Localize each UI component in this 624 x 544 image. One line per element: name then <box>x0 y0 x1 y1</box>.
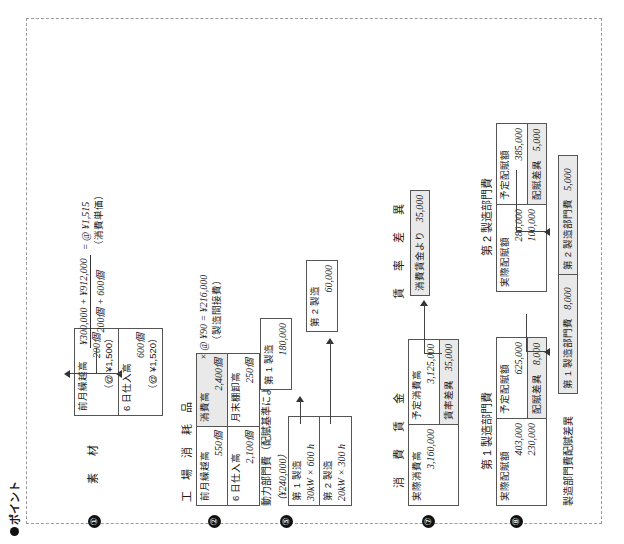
table-row: 第 1 製造 180,000 <box>261 319 292 390</box>
section-1-row-1-unit: （@ ¥1,520） <box>147 333 160 411</box>
section-5-number: ⑤ <box>280 515 293 528</box>
section-dept2-right-row-1-label: 配賦差異 <box>531 160 542 200</box>
variance-summary-connector-0-h <box>526 314 527 352</box>
section-dept2-left-row-0-value-0: 280,000 <box>512 209 526 287</box>
section-5-source-row-0-basis: 30kW × 600 h <box>304 421 318 501</box>
section-5-result-row-0-value: 180,000 <box>276 323 290 385</box>
variance-summary-cell-0-value: 8,000 <box>562 287 573 310</box>
section-5-result-row-0: 第 1 製造 180,000 <box>261 319 292 390</box>
section-7-right-row-0-value: 3,125,000 <box>424 344 438 420</box>
variance-summary-cell-1: 第 2 製造部門費 5,000 <box>559 156 578 275</box>
section-1-number: ① <box>88 515 101 528</box>
table-row: 実際消費高 3,160,000 予定消費高 3,125,000 <box>409 339 440 505</box>
section-8-right-row-0-label: 予定配賦額 <box>499 364 510 414</box>
section-2-left-row-1: 6 日仕入高 2,100個 <box>228 427 259 506</box>
section-5-connector-1 <box>330 342 331 424</box>
section-7-right-row-1: 賃率差異 35,000 <box>440 339 459 424</box>
section-2-right-row-1: 月末棚卸高 250個 <box>228 354 259 427</box>
section-1-fraction: ¥300,000 + ¥912,000 200個 + 600個 <box>78 255 107 348</box>
section-8-left-row-0-label: 実際配賦額 <box>499 451 510 501</box>
section-2-title: 工 場 消 耗 品 <box>178 394 194 506</box>
section-2-left-row-1-label: 6 日仕入高 <box>230 453 241 501</box>
variance-wage-table: 消費賃金より 35,000 <box>410 190 430 296</box>
page-title-label: ポイント <box>6 481 22 525</box>
bullet-icon <box>10 527 19 536</box>
table-row: 第 1 製造部門費 8,000 第 2 製造部門費 5,000 <box>559 156 578 394</box>
section-5-result-row-1: 第 2 製造 60,000 <box>307 261 338 332</box>
section-5-source-row-0-label: 第 1 製造 <box>291 460 302 501</box>
section-7-left-row-0-value: 3,160,000 <box>424 429 438 501</box>
section-8-number: ⑧ <box>510 515 523 528</box>
section-2-formula-expr: × @ ¥90 = ¥216,000 <box>198 275 209 360</box>
variance-summary-title: 製造部門費配賦差異 <box>560 416 575 506</box>
section-7-connector-h <box>424 304 425 354</box>
section-1-formula-note: （消費単価） <box>91 190 105 250</box>
table-row: 消費賃金より 35,000 <box>411 190 430 295</box>
section-7-connector-v <box>424 353 442 354</box>
section-2-formula-note: （製造間接費） <box>209 275 223 360</box>
section-7-right-row-1-label: 賃率差異 <box>443 380 454 420</box>
variance-summary-cell-1-value: 5,000 <box>562 168 573 191</box>
section-5-result-table-1: 第 1 製造 180,000 <box>260 318 292 390</box>
section-5-source-row-1-basis: 20kW × 300 h <box>335 421 349 501</box>
section-1-fraction-denominator: 200個 + 600個 <box>91 255 107 348</box>
section-8-title: 第 1 製造部門費 <box>478 356 494 506</box>
section-7-number: ⑦ <box>422 515 435 528</box>
section-5-result-row-0-label: 第 1 製造 <box>263 344 274 385</box>
section-1-fraction-numerator: ¥300,000 + ¥912,000 <box>78 255 91 348</box>
section-dept2-right-row-1-value: 5,000 <box>531 129 542 152</box>
section-2-right-row-1-qty: 250個 <box>243 358 257 422</box>
section-1-arrow-0-icon <box>64 370 70 378</box>
section-7-right-row-0-label: 予定消費高 <box>411 370 422 420</box>
variance-summary-connector-0-v <box>526 351 546 352</box>
section-1-connector-out <box>96 348 97 374</box>
section-2-left-row-1-qty: 2,100個 <box>243 431 257 501</box>
table-row: 第 1 製造 30kW × 600 h <box>289 417 320 506</box>
section-1-row-1: 6 日仕入高 600個 （@ ¥1,520） <box>119 329 163 416</box>
section-2-right-row-0-label: 消費高 <box>199 392 210 422</box>
section-8-right-row-1-value: 8,000 <box>531 343 542 366</box>
section-5-source-row-1: 第 2 製造 20kW × 300 h <box>320 417 351 506</box>
section-1-formula-equals: = @ ¥1,515 <box>80 190 91 250</box>
section-dept2-table: 実際配賦額 280,000 100,000 予定配賦額 385,000 配賦差異… <box>496 123 547 292</box>
section-2-right-row-1-label: 月末棚卸高 <box>230 372 241 422</box>
variance-summary-arrow-1-icon <box>544 228 550 236</box>
section-7-right-row-1-value: 35,000 <box>443 344 454 372</box>
section-8-left-row-0-value-0: 403,000 <box>512 423 526 501</box>
section-2-left-row-0-qty: 550個 <box>212 431 226 501</box>
table-row: 前月繰越高 550個 消費高 2,400個 <box>197 354 228 506</box>
variance-wage-value: 35,000 <box>414 195 425 223</box>
section-5-connector-0 <box>300 400 301 424</box>
section-2-left-row-0-label: 前月繰越高 <box>199 451 210 501</box>
table-row: 6 日仕入高 2,100個 月末棚卸高 250個 <box>228 354 259 506</box>
section-dept2-left-row-0-label: 実際配賦額 <box>499 237 510 287</box>
table-row: 実際配賦額 403,000 230,000 予定配賦額 625,000 <box>497 338 528 506</box>
table-row: 第 2 製造 20kW × 300 h <box>320 417 351 506</box>
section-5-source-row-1-label: 第 2 製造 <box>322 460 333 501</box>
section-8-right-row-0: 予定配賦額 625,000 <box>497 338 528 419</box>
section-1-title: 素 材 <box>84 420 100 506</box>
variance-summary-connector-1-v <box>516 231 546 232</box>
section-dept2-right-row-0: 予定配賦額 385,000 <box>497 124 528 205</box>
page-title: ポイント <box>6 481 22 536</box>
section-1-arrow-1-icon <box>116 370 122 378</box>
table-row: 6 日仕入高 600個 （@ ¥1,520） <box>119 329 163 416</box>
section-7-left-row-0: 実際消費高 3,160,000 <box>409 425 459 506</box>
worksheet-page: ポイント ① 素 材 前月繰越高 200個 （@ ¥1,500） 6 日仕入高 <box>0 0 624 544</box>
section-7-left-row-0-label: 実際消費高 <box>411 451 422 501</box>
section-8-right-row-0-value: 625,000 <box>512 342 526 414</box>
variance-summary-table: 第 1 製造部門費 8,000 第 2 製造部門費 5,000 <box>558 155 578 394</box>
section-2-right-row-0: 消費高 2,400個 <box>197 354 228 427</box>
rotated-page-stage: ポイント ① 素 材 前月繰越高 200個 （@ ¥1,500） 6 日仕入高 <box>0 0 624 544</box>
table-row: 第 2 製造 60,000 <box>307 261 338 332</box>
section-dept2-title: 第 2 製造部門費 <box>478 142 494 292</box>
section-dept2-left-row-0-value-1: 100,000 <box>525 209 539 287</box>
section-5-result-table-2: 第 2 製造 60,000 <box>306 260 338 332</box>
section-2-number: ② <box>208 515 221 528</box>
variance-summary-arrow-0-icon <box>544 348 550 356</box>
variance-summary-cell-1-label: 第 2 製造部門費 <box>562 199 573 270</box>
section-8-table: 実際配賦額 403,000 230,000 予定配賦額 625,000 配賦差異… <box>496 337 547 506</box>
section-8-right-row-1-label: 配賦差異 <box>531 374 542 414</box>
section-dept2-right-row-0-label: 予定配賦額 <box>499 150 510 200</box>
variance-summary-cell-0-label: 第 1 製造部門費 <box>562 318 573 389</box>
